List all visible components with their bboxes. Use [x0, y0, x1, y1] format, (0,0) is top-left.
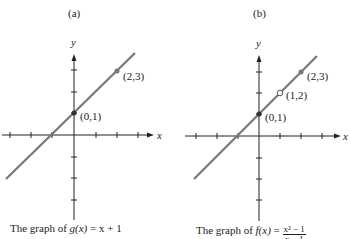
fraction-denominator: x − 1 — [283, 235, 306, 239]
caption-b: The graph of f(x) = x² − 1x − 1 — [196, 222, 306, 239]
point-label-0-1: (0,1) — [80, 110, 101, 123]
x-axis-label: x — [342, 130, 348, 142]
caption-a: The graph of g(x) = x + 1 — [10, 222, 122, 234]
x-arrow-icon — [334, 134, 341, 139]
panel-a-label: (a) — [68, 7, 81, 20]
panel-a: (a) x y (0,1) (2,3) — [2, 7, 162, 220]
caption-func: f(x) — [256, 224, 271, 236]
y-axis-label: y — [255, 37, 261, 49]
point-2-3 — [115, 69, 120, 74]
panel-b-label: (b) — [253, 7, 266, 20]
panel-b: (b) x y (0,1) (1,2) (2,3) — [185, 7, 348, 221]
caption-eq: = x + 1 — [87, 222, 121, 234]
caption-text: The graph of — [196, 224, 256, 236]
caption-text: The graph of — [10, 222, 70, 234]
fraction: x² − 1x − 1 — [283, 225, 306, 239]
y-axis-label: y — [70, 36, 76, 48]
y-arrow-icon — [72, 54, 77, 61]
point-2-3 — [299, 70, 304, 75]
point-label-2-3: (2,3) — [123, 70, 144, 83]
point-label-0-1: (0,1) — [265, 111, 286, 124]
caption-eq: = — [271, 224, 283, 236]
y-arrow-icon — [257, 55, 262, 62]
x-arrow-icon — [147, 133, 154, 138]
point-0-1 — [72, 111, 77, 116]
caption-func: g(x) — [70, 222, 88, 234]
figure-canvas: (a) x y (0,1) (2,3) (b) x — [0, 0, 350, 239]
point-label-2-3: (2,3) — [307, 70, 328, 83]
point-0-1 — [257, 112, 262, 117]
point-label-1-2: (1,2) — [286, 89, 307, 102]
open-point-1-2 — [277, 90, 283, 96]
graph-line-f — [194, 56, 317, 179]
x-axis-label: x — [156, 129, 162, 141]
